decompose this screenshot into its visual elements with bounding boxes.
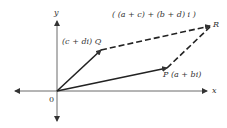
point-q-label: (c + di) Q — [62, 38, 101, 46]
y-axis-label: y — [54, 9, 59, 17]
origin-label: 0 — [49, 96, 54, 104]
diagram-graphics — [0, 0, 227, 128]
x-axis-label: x — [212, 87, 217, 95]
point-r-label: R — [213, 21, 219, 29]
vector-op — [57, 68, 167, 91]
point-p-label: P (a + bi) — [163, 71, 201, 79]
dashed-pr — [167, 27, 210, 68]
sum-label: ( (a + c) + (b + d) i ) — [112, 11, 196, 19]
complex-addition-diagram: y x 0 (c + di) Q P (a + bi) R ( (a + c) … — [0, 0, 227, 128]
vector-oq — [57, 50, 101, 91]
dashed-qr — [101, 26, 210, 50]
